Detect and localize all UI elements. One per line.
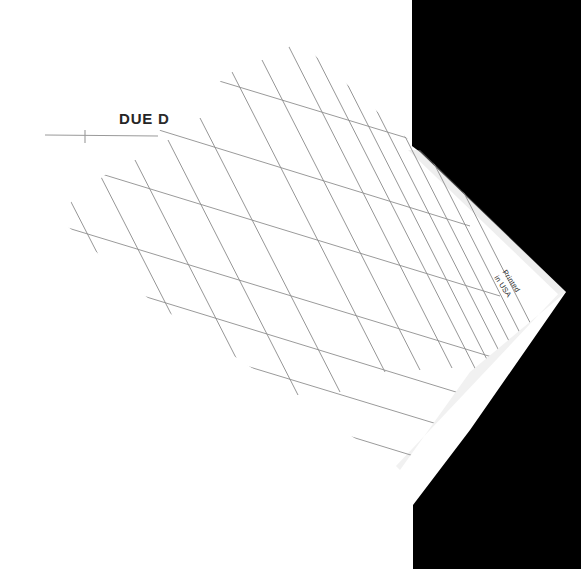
scanned-paper-photo: DUE D Printed in USA bbox=[0, 0, 581, 569]
due-label-text: DUE bbox=[119, 110, 153, 127]
paper-sheet-graphic bbox=[0, 0, 581, 569]
due-partial-char: D bbox=[158, 110, 169, 127]
